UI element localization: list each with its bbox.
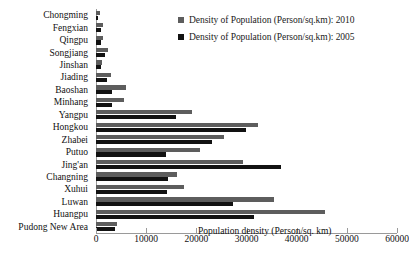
bar-hongkou-2005 <box>96 128 246 132</box>
category-label: Zhabei <box>62 135 88 145</box>
category-label: Baoshan <box>55 85 88 95</box>
bar-minhang-2005 <box>96 103 112 107</box>
bar-pudong-new-area-2005 <box>96 227 115 231</box>
bar-fengxian-2010 <box>96 23 103 27</box>
tick-mark <box>96 228 97 233</box>
bar-jinshan-2005 <box>96 65 101 69</box>
bar-qingpu-2010 <box>96 36 103 40</box>
bar-qingpu-2005 <box>96 40 101 44</box>
category-label: Jiading <box>61 72 88 82</box>
bar-group <box>96 71 397 83</box>
tick-label: 10000 <box>134 234 158 244</box>
bar-jiading-2005 <box>96 78 107 82</box>
bar-yangpu-2010 <box>96 110 192 114</box>
category-label: Minhang <box>54 97 88 107</box>
bar-zhabei-2005 <box>96 140 212 144</box>
bar-jiading-2010 <box>96 73 111 77</box>
bar-xuhui-2005 <box>96 190 167 194</box>
bar-group <box>96 171 397 183</box>
category-axis-labels: ChongmingFengxianQingpuSongjiangJinshanJ… <box>0 9 93 233</box>
bar-luwan-2010 <box>96 197 274 201</box>
bar-baoshan-2010 <box>96 85 126 89</box>
category-label: Fengxian <box>53 23 88 33</box>
bar-jing-an-2005 <box>96 165 281 169</box>
bar-xuhui-2010 <box>96 185 184 189</box>
bar-group <box>96 133 397 145</box>
tick-label: 50000 <box>335 234 359 244</box>
bar-songjiang-2005 <box>96 53 105 57</box>
category-label: Pudong New Area <box>18 222 88 232</box>
bar-baoshan-2005 <box>96 90 112 94</box>
bar-group <box>96 84 397 96</box>
bar-zhabei-2010 <box>96 135 224 139</box>
x-axis-title: Population density (Person/sq. km) <box>198 226 332 236</box>
bar-group <box>96 121 397 133</box>
category-label: Jing'an <box>61 160 88 170</box>
category-label: Luwan <box>62 197 88 207</box>
bar-songjiang-2010 <box>96 48 108 52</box>
bar-group <box>96 9 397 21</box>
tick-label: 0 <box>94 234 99 244</box>
bar-group <box>96 196 397 208</box>
tick-mark <box>146 228 147 233</box>
category-label: Songjiang <box>49 48 88 58</box>
bar-chongming-2010 <box>96 11 100 15</box>
bar-putuo-2005 <box>96 152 166 156</box>
bar-minhang-2010 <box>96 98 124 102</box>
category-label: Xuhui <box>64 184 88 194</box>
bar-jinshan-2010 <box>96 60 102 64</box>
bar-luwan-2005 <box>96 202 233 206</box>
bar-changning-2005 <box>96 177 168 181</box>
category-label: Hongkou <box>53 122 88 132</box>
bar-group <box>96 183 397 195</box>
plot-area <box>96 9 397 233</box>
bar-chongming-2005 <box>96 16 98 20</box>
category-label: Qingpu <box>60 35 89 45</box>
bar-fengxian-2005 <box>96 28 101 32</box>
bar-group <box>96 59 397 71</box>
category-label: Huangpu <box>53 209 88 219</box>
bar-huangpu-2010 <box>96 210 325 214</box>
bar-group <box>96 109 397 121</box>
category-label: Putuo <box>66 147 88 157</box>
bar-hongkou-2010 <box>96 123 258 127</box>
bar-group <box>96 21 397 33</box>
bar-huangpu-2005 <box>96 215 254 219</box>
bar-changning-2010 <box>96 172 177 176</box>
tick-label: 60000 <box>385 234 409 244</box>
bar-group <box>96 46 397 58</box>
bar-group <box>96 34 397 46</box>
tick-mark <box>397 228 398 233</box>
bar-pudong-new-area-2010 <box>96 222 117 226</box>
bar-group <box>96 146 397 158</box>
category-label: Chongming <box>43 10 88 20</box>
bar-group <box>96 208 397 220</box>
category-label: Yangpu <box>59 110 88 120</box>
category-label: Jinshan <box>60 60 89 70</box>
bar-jing-an-2010 <box>96 160 243 164</box>
tick-mark <box>347 228 348 233</box>
bar-putuo-2010 <box>96 148 200 152</box>
category-label: Changning <box>46 172 88 182</box>
x-axis-ticks: 0100002000030000400005000060000 <box>96 234 397 250</box>
bar-yangpu-2005 <box>96 115 176 119</box>
bar-group <box>96 96 397 108</box>
bar-group <box>96 158 397 170</box>
